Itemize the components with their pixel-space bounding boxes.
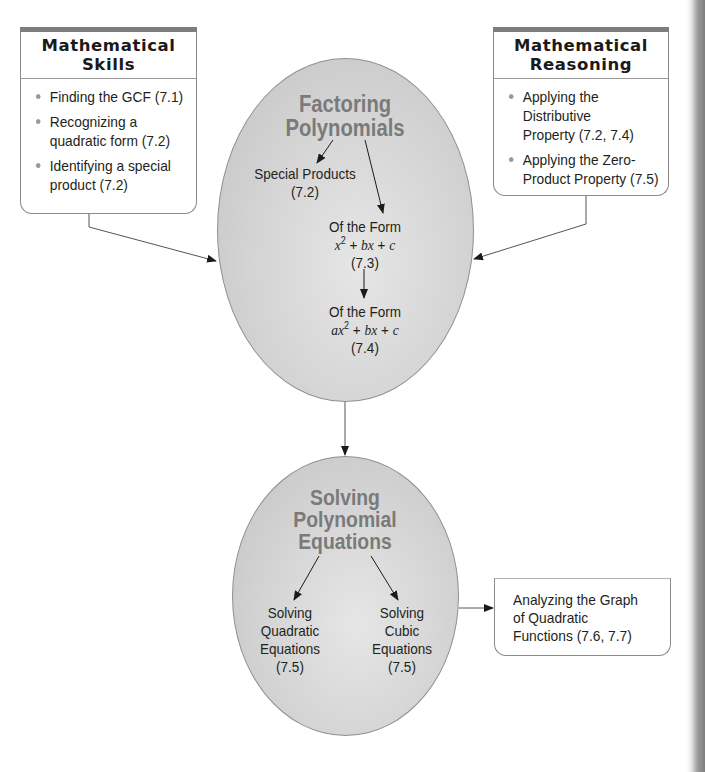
form-ax2-bx-c-node: Of the Form ax2 + bx + c (7.4) [311,303,419,357]
expr-part: + [349,321,364,338]
expr-part: ax [331,322,344,338]
expr-part: bx [364,322,377,338]
factoring-title: Factoring Polynomials [275,92,416,140]
reasoning-list: Applying the Distributive Property (7.2,… [494,79,668,204]
node-section: (7.4) [311,339,419,357]
mathematical-skills-box: Mathematical Skills Finding the GCF (7.1… [20,27,197,214]
title-line: Factoring [275,92,416,116]
node-label: Equations [366,640,438,658]
box-line: of Quadratic [513,609,648,627]
reasoning-title-line1: Mathematical [498,36,664,55]
skills-title-line2: Skills [25,55,192,74]
node-section: (7.2) [247,183,364,201]
node-label: Cubic [366,622,438,640]
item-text: Identifying a special [50,156,202,175]
item-text: Recognizing a [50,112,202,131]
solving-cubic-node: Solving Cubic Equations (7.5) [366,604,438,676]
solving-quadratic-node: Solving Quadratic Equations (7.5) [254,604,326,676]
skills-list-item: Finding the GCF (7.1) [35,87,202,106]
item-text: quadratic form (7.2) [50,131,202,150]
expr-part: bx [361,237,374,253]
title-line: Polynomial [283,509,406,531]
mathematical-reasoning-box: Mathematical Reasoning Applying the Dist… [493,27,669,196]
item-text: Applying the [523,87,675,106]
node-label: Equations [254,640,326,658]
expr-part: c [389,237,395,253]
skills-box-title: Mathematical Skills [21,32,196,79]
node-label: Of the Form [316,218,415,236]
node-label: Solving [254,604,326,622]
expression: ax2 + bx + c [311,321,419,339]
item-text: Product Property (7.5) [523,169,675,188]
expression: x2 + bx + c [316,236,415,254]
special-products-node: Special Products (7.2) [247,165,364,201]
item-text: Applying the Zero- [523,150,675,169]
item-text: Property (7.2, 7.4) [523,125,675,144]
analyzing-graph-box: Analyzing the Graph of Quadratic Functio… [494,578,671,656]
skills-title-line1: Mathematical [25,36,192,55]
node-label: Solving [366,604,438,622]
form-x2-bx-c-node: Of the Form x2 + bx + c (7.3) [316,218,415,272]
node-section: (7.5) [366,658,438,676]
title-line: Equations [283,531,406,553]
expr-part: c [393,322,399,338]
solving-title: Solving Polynomial Equations [283,487,406,553]
box-line: Functions (7.6, 7.7) [513,627,648,645]
reasoning-box-title: Mathematical Reasoning [494,32,668,79]
expr-part: + [374,236,389,253]
node-section: (7.5) [254,658,326,676]
node-label: Quadratic [254,622,326,640]
graph-box-text: Analyzing the Graph of Quadratic Functio… [513,591,648,645]
expr-part: + [377,321,392,338]
reasoning-list-item: Applying the Distributive Property (7.2,… [508,87,675,144]
reasoning-title-line2: Reasoning [498,55,664,74]
item-text: Finding the GCF (7.1) [50,87,202,106]
title-line: Polynomials [275,116,416,140]
box-line: Analyzing the Graph [513,591,648,609]
reasoning-list-item: Applying the Zero- Product Property (7.5… [508,150,675,188]
node-label: Of the Form [311,303,419,321]
skills-list-item: Identifying a special product (7.2) [35,156,202,194]
title-line: Solving [283,487,406,509]
skills-list: Finding the GCF (7.1) Recognizing a quad… [21,79,196,210]
node-section: (7.3) [316,254,415,272]
node-label: Special Products [247,165,364,183]
expr-part: + [346,236,361,253]
item-text: product (7.2) [50,175,202,194]
item-text: Distributive [523,106,675,125]
skills-list-item: Recognizing a quadratic form (7.2) [35,112,202,150]
